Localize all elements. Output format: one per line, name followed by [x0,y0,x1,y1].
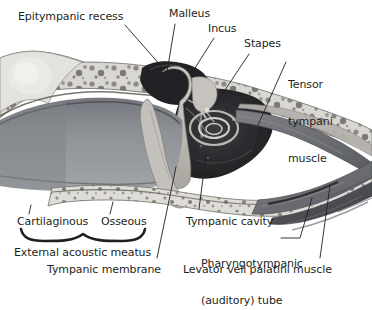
label-tensor-tympani-line-1: Tensor [288,79,333,91]
incus-leader [190,38,214,76]
label-osseous: Osseous [101,216,147,229]
external-acoustic-meatus-brace [21,229,145,241]
label-cartilaginous: Cartilaginous [17,216,88,229]
cartilaginous-tick [29,205,31,214]
label-tensor-tympani-muscle: Tensor tympani muscle [288,55,333,189]
label-incus: Incus [208,23,236,36]
label-tensor-tympani-line-2: tympani [288,116,333,128]
label-external-acoustic-meatus: External acoustic meatus [14,247,151,260]
label-tympanic-membrane: Tympanic membrane [47,264,161,277]
label-tympanic-cavity: Tympanic cavity [186,216,273,229]
osseous-tick [110,202,113,214]
label-tensor-tympani-line-3: muscle [288,153,333,165]
label-epitympanic-recess: Epitympanic recess [18,11,123,24]
label-levator-veli-palatini-muscle: Levator veli palatini muscle [183,264,332,277]
label-malleus: Malleus [169,8,210,21]
epitympanic-recess-leader [125,25,161,66]
label-stapes: Stapes [244,38,281,51]
label-pharyngotympanic-line-2: (auditory) tube [201,295,303,307]
